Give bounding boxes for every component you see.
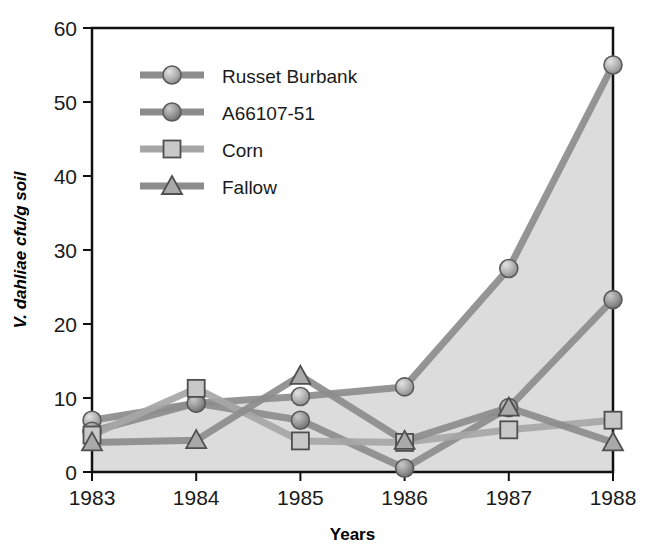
data-point xyxy=(396,459,414,477)
data-point xyxy=(604,291,622,309)
data-point xyxy=(292,432,309,449)
chart-figure: 0102030405060198319841985198619871988Yea… xyxy=(0,0,659,552)
legend-label: A66107-51 xyxy=(222,103,315,124)
legend-marker-square-icon xyxy=(164,141,181,158)
y-axis-tick-label: 0 xyxy=(65,461,77,484)
x-axis-tick-label: 1986 xyxy=(381,486,428,509)
data-point xyxy=(500,421,517,438)
x-axis-tick-label: 1987 xyxy=(485,486,532,509)
y-axis-tick-label: 60 xyxy=(54,17,77,40)
y-axis-tick-label: 30 xyxy=(54,239,77,262)
legend-label: Russet Burbank xyxy=(222,66,358,87)
data-point xyxy=(500,260,518,278)
y-axis-tick-label: 50 xyxy=(54,91,77,114)
data-point xyxy=(396,378,414,396)
legend-marker-circle-icon xyxy=(163,66,181,84)
legend-marker-circle-icon xyxy=(163,103,181,121)
x-axis-tick-label: 1983 xyxy=(69,486,116,509)
y-axis-title: V. dahliae cfu/g soil xyxy=(11,170,30,328)
x-axis-tick-label: 1985 xyxy=(277,486,324,509)
x-axis-tick-label: 1988 xyxy=(590,486,637,509)
legend-label: Fallow xyxy=(222,177,277,198)
data-point xyxy=(291,388,309,406)
data-point xyxy=(605,412,622,429)
data-point xyxy=(291,411,309,429)
legend-item: Russet Burbank xyxy=(140,66,358,87)
x-axis-title: Years xyxy=(330,525,375,544)
data-point xyxy=(188,380,205,397)
y-axis-tick-label: 20 xyxy=(54,313,77,336)
y-axis-tick-label: 10 xyxy=(54,387,77,410)
chart-svg: 0102030405060198319841985198619871988Yea… xyxy=(0,0,659,552)
y-axis-tick-label: 40 xyxy=(54,165,77,188)
data-point xyxy=(604,56,622,74)
x-axis-tick-label: 1984 xyxy=(173,486,220,509)
legend-label: Corn xyxy=(222,140,263,161)
